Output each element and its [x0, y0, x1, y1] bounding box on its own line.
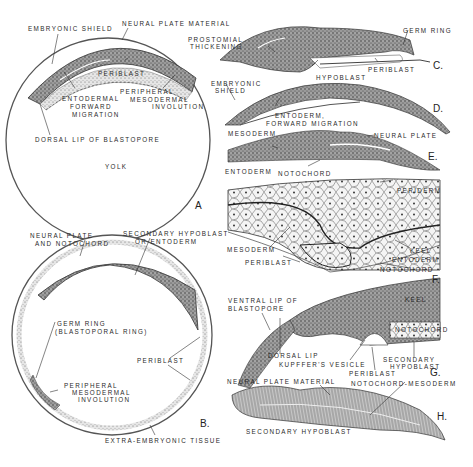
label-hypoblast-c: HYPOBLAST [316, 74, 366, 81]
label-entoderm-e: ENTODERM [225, 168, 272, 175]
figure-letter-d: D. [433, 103, 443, 114]
label-periblast-f: PERIBLAST [245, 259, 292, 266]
figure-letter-a: A [195, 200, 202, 211]
label-peripheral-b: PERIPHERAL [64, 382, 118, 389]
label-embryonic-d: EMBRYONIC [211, 80, 262, 87]
label-notochord-mesoderm: NOTOCHORD-MESODERM [351, 380, 457, 387]
label-embryonic-shield: EMBRYONIC SHIELD [28, 25, 113, 32]
label-notochord-e: NOTOCHORD [278, 170, 332, 177]
label-neural-plate: NEURAL PLATE [30, 232, 93, 239]
label-dorsal-lip-g: DORSAL LIP [268, 352, 319, 359]
label-mesoderm-f: MESODERM [227, 246, 275, 253]
figure-letter-g: G. [430, 367, 441, 378]
label-periblast-g: PERIBLAST [349, 370, 396, 377]
label-or-entoderm: OR ENTODERM [135, 238, 198, 245]
label-kupffers-vesicle: KUPFFER'S VESICLE [279, 361, 366, 368]
label-entodermal: ENTODERMAL [62, 95, 120, 102]
label-secondary-hypoblast-h: SECONDARY HYPOBLAST [246, 428, 352, 435]
label-secondary-hypoblast: SECONDARY HYPOBLAST [123, 230, 229, 237]
label-entoderm-d: ENTODERM, [275, 112, 325, 119]
label-mesodermal: MESODERMAL [130, 96, 189, 103]
label-periblast: PERIBLAST [98, 70, 145, 77]
label-prostomial: PROSTOMIAL [188, 36, 243, 43]
label-periblast-c: PERIBLAST [368, 66, 415, 73]
label-mesodermal-b: MESODERMAL [72, 389, 131, 396]
label-secondary-g: SECONDARY [383, 356, 435, 363]
label-germ-ring-c: GERM RING [403, 27, 452, 34]
figure-letter-f: F. [432, 274, 440, 285]
label-notochord-g: NOTOCHORD [395, 326, 449, 333]
panel-b-drawing [12, 235, 212, 435]
label-neural-plate-material: NEURAL PLATE MATERIAL [122, 20, 231, 27]
label-involution: INVOLUTION [152, 103, 205, 110]
label-keel-f: KEEL [410, 247, 432, 254]
label-migration: MIGRATION [72, 111, 120, 118]
embryo-diagram-figure: EMBRYONIC SHIELD NEURAL PLATE MATERIAL P… [0, 0, 473, 467]
panel-g-drawing [238, 278, 440, 388]
label-neural-plate-e: NEURAL PLATE [374, 132, 437, 139]
label-periblast-b: PERIBLAST [137, 357, 184, 364]
label-involution-b: INVOLUTION [78, 396, 131, 403]
figure-letter-h: H. [437, 411, 447, 422]
label-neural-plate-material-h: NEURAL PLATE MATERIAL [227, 378, 336, 385]
label-extra-embryonic-tissue: EXTRA-EMBRYONIC TISSUE [105, 437, 221, 444]
label-blastopore-g: BLASTOPORE [228, 305, 285, 312]
label-thickening: THICKENING [190, 43, 243, 50]
label-mesoderm-e: MESODERM [228, 130, 276, 137]
label-shield-d: SHIELD [215, 87, 246, 94]
label-keel-g: KEEL [405, 296, 427, 303]
figure-letter-c: C. [433, 60, 443, 71]
label-notochord-f: NOTOCHORD [380, 266, 434, 273]
label-blastoporal-ring: (BLASTOPORAL RING) [55, 328, 148, 335]
label-periderm: PERIDERM [397, 187, 441, 194]
label-entoderm-f: ENTODERM [392, 256, 439, 263]
label-and-notochord: AND NOTOCHORD [35, 240, 109, 247]
label-yolk: YOLK [105, 163, 127, 170]
label-forward: FORWARD [70, 103, 112, 110]
label-dorsal-lip-of-blastopore: DORSAL LIP OF BLASTOPORE [35, 136, 160, 143]
label-forward-migration-d: FORWARD MIGRATION [266, 120, 359, 127]
label-germ-ring: GERM RING [57, 320, 106, 327]
label-ventral-lip-of: VENTRAL LIP OF [228, 297, 298, 304]
figure-letter-b: B. [200, 418, 209, 429]
label-peripheral: PERIPHERAL [120, 88, 174, 95]
figure-letter-e: E. [428, 151, 437, 162]
